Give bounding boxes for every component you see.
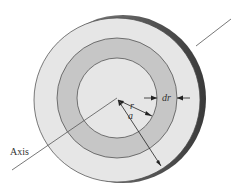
a-label: a [128,110,133,121]
dr-label: dr [162,92,171,103]
axis-line-back [196,19,231,46]
disk-diagram [0,0,241,190]
axis-label: Axis [10,146,29,157]
